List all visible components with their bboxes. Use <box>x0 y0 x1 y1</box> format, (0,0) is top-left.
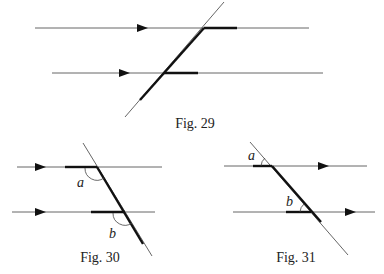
figure-caption: Fig. 29 <box>175 116 215 131</box>
arrow-top-icon <box>318 162 329 170</box>
arrow-top-icon <box>137 24 148 32</box>
figure-fig31: abFig. 31 <box>224 142 375 265</box>
angle-label-b: b <box>109 226 116 241</box>
figure-fig29: Fig. 29 <box>35 2 323 131</box>
thick-transversal <box>272 166 321 222</box>
angle-label-a: a <box>77 175 84 190</box>
figure-caption: Fig. 31 <box>276 250 316 265</box>
figure-caption: Fig. 30 <box>80 250 120 265</box>
angle-label-a: a <box>248 148 255 163</box>
arrow-bottom-icon <box>345 208 356 216</box>
figure-fig30: abFig. 30 <box>12 143 162 265</box>
geometry-figures: Fig. 29abFig. 30abFig. 31 <box>0 0 384 274</box>
arrow-top-icon <box>35 163 46 171</box>
arrow-bottom-icon <box>119 69 130 77</box>
thick-transversal <box>140 28 204 100</box>
angle-label-b: b <box>286 194 293 209</box>
arrow-bottom-icon <box>35 208 46 216</box>
